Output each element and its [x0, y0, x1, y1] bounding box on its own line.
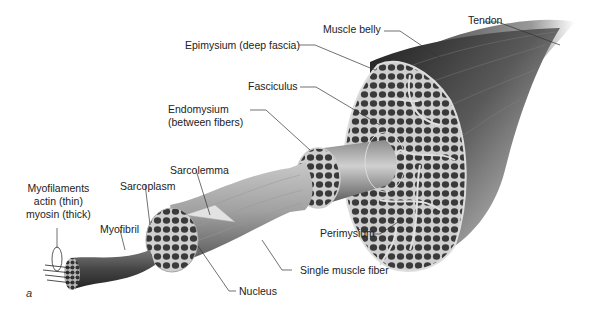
label-endomysium-line2: (between fibers) [168, 116, 243, 129]
label-muscle-belly: Muscle belly [323, 23, 381, 36]
label-myofibril: Myofibril [100, 223, 139, 236]
label-endomysium: Endomysium (between fibers) [168, 103, 243, 129]
label-tendon: Tendon [468, 14, 502, 27]
label-nucleus: Nucleus [239, 285, 277, 298]
label-sarcoplasm: Sarcoplasm [120, 180, 175, 193]
label-myofilaments-line2: actin (thin) [26, 195, 91, 208]
label-perimysium: Perimysium [320, 227, 375, 240]
panel-label: a [26, 287, 32, 299]
myofibril-shape [70, 250, 155, 290]
label-myofilaments: Myofilaments actin (thin) myosin (thick) [26, 182, 91, 221]
label-fasciculus: Fasciculus [248, 80, 298, 93]
label-endomysium-line1: Endomysium [168, 103, 243, 116]
label-sarcolemma: Sarcolemma [170, 164, 229, 177]
label-myofilaments-line1: Myofilaments [26, 182, 91, 195]
label-myofilaments-line3: myosin (thick) [26, 208, 91, 221]
label-epimysium: Epimysium (deep fascia) [185, 39, 300, 52]
label-single-muscle-fiber: Single muscle fiber [300, 264, 389, 277]
myofibril-cross-section [64, 258, 80, 290]
muscle-anatomy-diagram: Tendon Muscle belly Epimysium (deep fasc… [0, 0, 590, 319]
